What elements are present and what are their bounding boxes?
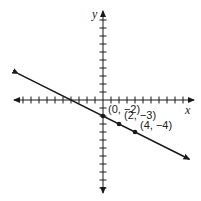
data-point xyxy=(101,114,106,119)
y-axis-label: y xyxy=(91,7,98,21)
point-label: (4, −4) xyxy=(140,119,172,131)
data-points: (0, −2)(2, −3)(4, −4) xyxy=(101,103,172,134)
coordinate-plane: (0, −2)(2, −3)(4, −4) y x xyxy=(0,0,201,201)
x-axis-label: x xyxy=(184,103,191,117)
data-point xyxy=(133,130,138,135)
data-point xyxy=(117,122,122,127)
